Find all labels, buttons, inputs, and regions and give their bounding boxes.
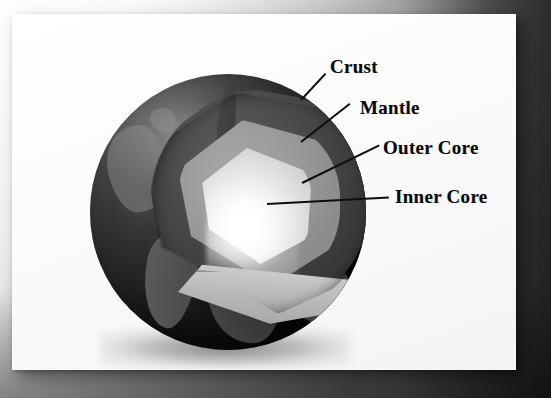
- label-outer-core: Outer Core: [383, 137, 479, 159]
- figure-canvas: CrustMantleOuter CoreInner Core: [0, 0, 551, 398]
- label-inner-core: Inner Core: [395, 186, 488, 208]
- earth-cutaway-illustration: [78, 60, 368, 370]
- label-crust: Crust: [330, 56, 378, 78]
- label-mantle: Mantle: [360, 97, 420, 119]
- diagram-card: CrustMantleOuter CoreInner Core: [12, 14, 516, 370]
- earth-globe: [90, 74, 366, 350]
